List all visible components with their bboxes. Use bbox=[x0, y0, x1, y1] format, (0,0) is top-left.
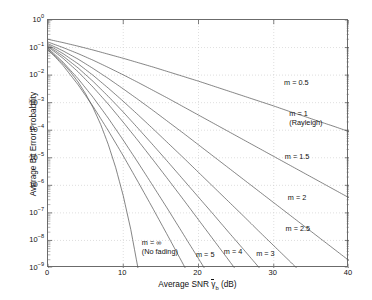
annotation-m-2-5: m = 2.5 bbox=[286, 225, 311, 234]
x-axis-title-suffix: (dB) bbox=[219, 279, 237, 289]
x-tick-label-40: 40 bbox=[344, 268, 352, 278]
annotation-m-3: m = 3 bbox=[256, 250, 274, 259]
x-tick-label-10: 10 bbox=[118, 268, 126, 278]
x-tick-label-20: 20 bbox=[193, 268, 201, 278]
annotation-rayleigh: (Rayleigh) bbox=[289, 119, 322, 128]
gamma-bar-symbol: γ bbox=[211, 279, 215, 289]
annotation-m-4: m = 4 bbox=[224, 248, 242, 257]
x-tick-label-30: 30 bbox=[269, 268, 277, 278]
gamma-symbol: γ bbox=[211, 279, 215, 289]
x-tick-label-0: 0 bbox=[45, 268, 49, 278]
annotation-m-2: m = 2 bbox=[288, 194, 306, 203]
x-axis-title: Average SNR γb (dB) bbox=[47, 279, 348, 289]
annotation-m-5: m = 5 bbox=[196, 251, 214, 260]
annotation-no-fading: (No fading) bbox=[142, 248, 178, 257]
chart-figure: 010203040 10010−110−210−310−410−510−610−… bbox=[0, 0, 372, 300]
annotation-m-1-5: m = 1.5 bbox=[285, 153, 310, 162]
y-axis-title: Average Bit Error Probability bbox=[28, 19, 38, 269]
annotation-m-0-5: m = 0.5 bbox=[284, 79, 309, 88]
x-axis-title-prefix: Average SNR bbox=[158, 279, 211, 289]
annotation-m: m = ∞ bbox=[142, 239, 162, 248]
